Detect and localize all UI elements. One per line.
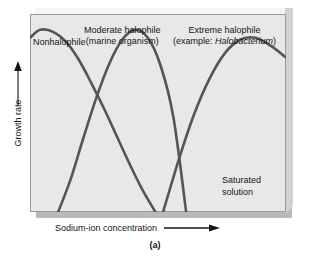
curve-nonhalophile: [30, 29, 155, 212]
y-axis-label: Growth rate: [13, 77, 23, 169]
label-moderate-halophile: Moderate halophile (marine organism): [84, 25, 161, 47]
y-axis: Growth rate: [6, 60, 30, 210]
label-extreme-line1: Extreme halophile: [173, 25, 276, 36]
x-axis-label: Sodium-ion concentration: [55, 223, 157, 233]
label-saturated-line1: Saturated: [222, 175, 261, 187]
label-saturated-line2: solution: [222, 187, 261, 199]
label-nonhalophile: Nonhalophile: [33, 37, 86, 48]
label-moderate-line1: Moderate halophile: [84, 25, 161, 36]
label-extreme-line2: (example: Halobacterium): [173, 36, 276, 47]
label-extreme-suffix: ): [273, 36, 276, 46]
label-moderate-line2: (marine organism): [84, 36, 161, 47]
figure-caption: (a): [0, 240, 310, 250]
panel-right-bevel: [285, 8, 293, 214]
halophile-growth-figure: Nonhalophile Moderate halophile (marine …: [0, 0, 310, 259]
x-axis: Sodium-ion concentration: [55, 221, 255, 235]
label-extreme-species: Halobacterium: [215, 36, 273, 46]
label-nonhalophile-text: Nonhalophile: [33, 37, 86, 47]
arrow-right-icon: [164, 223, 220, 233]
label-extreme-halophile: Extreme halophile (example: Halobacteriu…: [173, 25, 276, 47]
label-saturated-solution: Saturated solution: [222, 175, 261, 198]
label-extreme-prefix: (example:: [173, 36, 215, 46]
